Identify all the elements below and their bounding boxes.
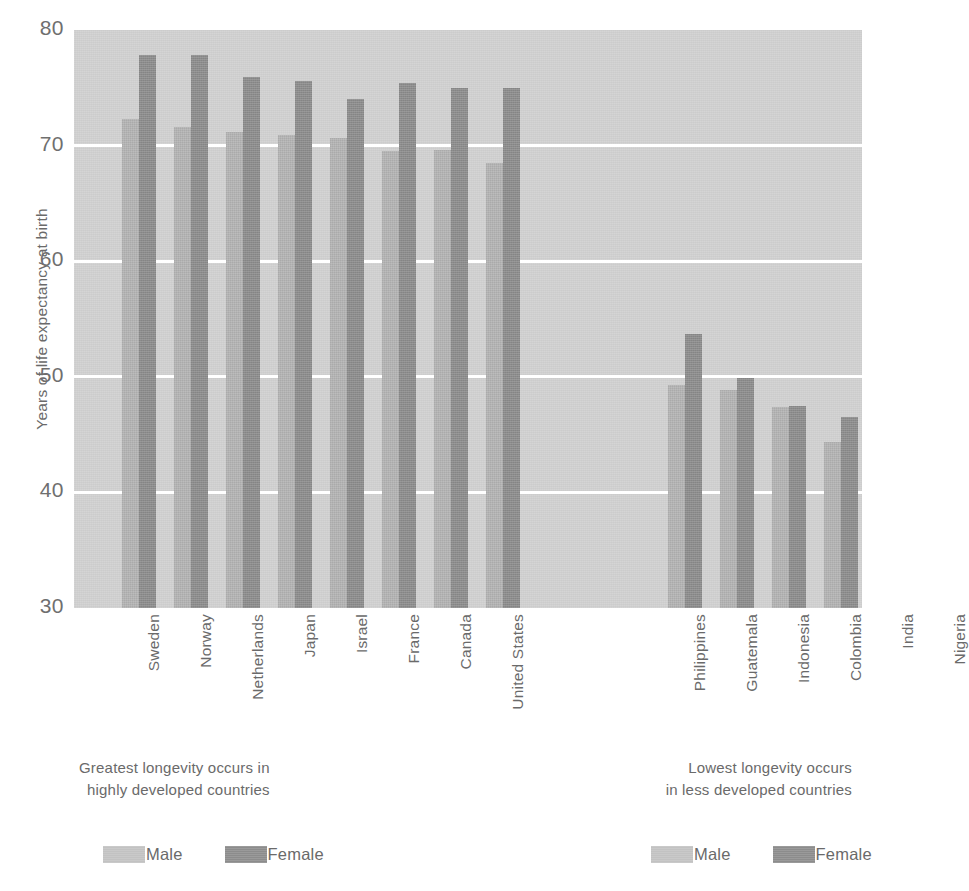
legend-swatch-female-icon	[773, 846, 815, 863]
x-label-netherlands: Netherlands	[249, 614, 267, 700]
caption-less-developed-line-1: Lowest longevity occurs	[688, 759, 852, 776]
legend-item-female: Female	[225, 845, 324, 864]
x-label-philippines: Philippines	[691, 614, 709, 691]
bar-male-colombia	[824, 442, 841, 608]
bar-male-norway	[174, 127, 191, 608]
legend-swatch-male-icon	[103, 846, 145, 863]
bar-male-israel	[330, 138, 347, 608]
bar-female-norway	[191, 55, 208, 608]
bar-female-israel	[347, 99, 364, 608]
legend-less-developed: Male Female	[651, 845, 872, 864]
bar-female-canada	[451, 88, 468, 608]
legend-item-male: Male	[651, 845, 731, 864]
bar-male-united-states	[486, 163, 503, 608]
caption-less-developed-countries: Lowest longevity occurs in less develope…	[522, 757, 852, 801]
legend-item-male: Male	[103, 845, 183, 864]
x-label-indonesia: Indonesia	[795, 614, 813, 683]
plot-area	[74, 30, 862, 608]
y-tick-label-70: 70	[18, 132, 64, 156]
x-label-canada: Canada	[457, 614, 475, 670]
legend-swatch-male-icon	[651, 846, 693, 863]
bar-female-sweden	[139, 55, 156, 608]
legend-label-male: Male	[146, 845, 183, 864]
x-label-france: France	[405, 614, 423, 663]
x-label-sweden: Sweden	[145, 614, 163, 671]
legend-item-female: Female	[773, 845, 872, 864]
x-label-guatemala: Guatemala	[743, 614, 761, 692]
bar-female-france	[399, 83, 416, 608]
bar-male-indonesia	[772, 407, 789, 608]
y-axis-tick-labels: 807060504030	[14, 0, 64, 891]
caption-developed-countries: Greatest longevity occurs in highly deve…	[79, 757, 409, 801]
legend-swatch-female-icon	[225, 846, 267, 863]
y-tick-label-60: 60	[18, 247, 64, 271]
caption-developed-line-2: highly developed countries	[79, 779, 409, 801]
x-axis-category-labels: SwedenNorwayNetherlandsJapanIsraelFrance…	[0, 614, 870, 744]
bar-male-canada	[434, 150, 451, 608]
legend-label-female: Female	[816, 845, 872, 864]
bar-female-philippines	[685, 334, 702, 608]
bar-male-japan	[278, 135, 295, 608]
x-label-india: India	[899, 614, 917, 649]
bar-male-france	[382, 151, 399, 608]
legend-developed: Male Female	[103, 845, 324, 864]
y-tick-label-80: 80	[18, 16, 64, 40]
bar-female-netherlands	[243, 77, 260, 608]
bar-female-indonesia	[789, 406, 806, 608]
x-label-norway: Norway	[197, 614, 215, 668]
caption-less-developed-line-2: in less developed countries	[522, 779, 852, 801]
caption-developed-line-1: Greatest longevity occurs in	[79, 759, 270, 776]
bar-female-japan	[295, 81, 312, 608]
bar-male-sweden	[122, 119, 139, 608]
y-tick-label-40: 40	[18, 478, 64, 502]
x-label-nigeria: Nigeria	[951, 614, 969, 665]
legend-label-female: Female	[268, 845, 324, 864]
bar-female-guatemala	[737, 378, 754, 608]
x-label-united-states: United States	[509, 614, 527, 710]
bar-male-guatemala	[720, 390, 737, 608]
bar-male-philippines	[668, 385, 685, 608]
y-tick-label-50: 50	[18, 363, 64, 387]
bar-male-netherlands	[226, 132, 243, 608]
x-label-japan: Japan	[301, 614, 319, 657]
x-label-israel: Israel	[353, 614, 371, 653]
bar-female-united-states	[503, 88, 520, 608]
x-label-colombia: Colombia	[847, 614, 865, 681]
bar-female-colombia	[841, 417, 858, 608]
legend-label-male: Male	[694, 845, 731, 864]
